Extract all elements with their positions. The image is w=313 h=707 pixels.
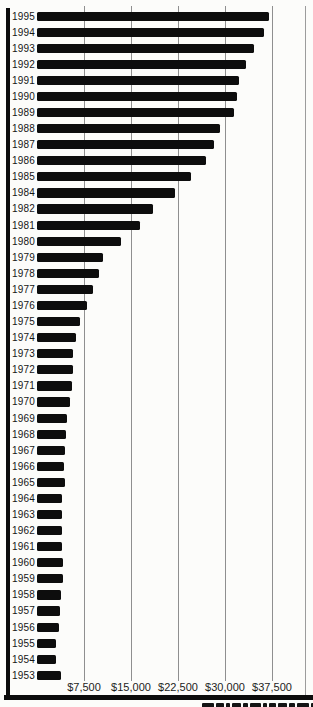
bar-1989 [37, 108, 234, 117]
bar-row: 1994 [0, 26, 313, 42]
bar-1970 [37, 397, 70, 406]
bar-1967 [37, 446, 65, 455]
year-label: 1964 [0, 493, 35, 505]
bar-1965 [37, 478, 65, 487]
year-label: 1967 [0, 445, 35, 457]
year-label: 1972 [0, 364, 35, 376]
year-label: 1986 [0, 155, 35, 167]
bar-row: 1989 [0, 106, 313, 122]
bar-row: 1987 [0, 138, 313, 154]
bar-1966 [37, 462, 64, 471]
bar-row: 1968 [0, 428, 313, 444]
bar-1953 [37, 671, 61, 680]
bar-1960 [37, 558, 63, 567]
bar-row: 1954 [0, 653, 313, 669]
bar-1979 [37, 253, 103, 262]
year-label: 1969 [0, 413, 35, 425]
year-label: 1989 [0, 107, 35, 119]
year-label: 1963 [0, 509, 35, 521]
bar-row: 1985 [0, 170, 313, 186]
year-label: 1987 [0, 139, 35, 151]
year-label: 1984 [0, 187, 35, 199]
bar-row: 1958 [0, 588, 313, 604]
bar-1976 [37, 301, 87, 310]
year-label: 1994 [0, 27, 35, 39]
bar-1962 [37, 526, 62, 535]
bar-1995 [37, 12, 269, 21]
bar-1963 [37, 510, 62, 519]
year-label: 1957 [0, 605, 35, 617]
year-label: 1968 [0, 429, 35, 441]
bar-row: 1963 [0, 508, 313, 524]
bar-1959 [37, 574, 63, 583]
bar-1991 [37, 76, 239, 85]
year-label: 1985 [0, 171, 35, 183]
x-tick-label: $37,500 [240, 681, 304, 693]
bar-row: 1982 [0, 202, 313, 218]
bar-row: 1957 [0, 604, 313, 620]
bar-1957 [37, 606, 60, 615]
year-label: 1988 [0, 123, 35, 135]
bar-row: 1956 [0, 621, 313, 637]
bar-row: 1971 [0, 379, 313, 395]
bar-row: 1977 [0, 283, 313, 299]
year-label: 1993 [0, 43, 35, 55]
bar-1973 [37, 349, 73, 358]
year-label: 1979 [0, 252, 35, 264]
bar-row: 1967 [0, 444, 313, 460]
year-label: 1958 [0, 589, 35, 601]
bar-row: 1978 [0, 267, 313, 283]
bar-1988 [37, 124, 220, 133]
bar-row: 1961 [0, 540, 313, 556]
bar-row: 1975 [0, 315, 313, 331]
bar-1990 [37, 92, 237, 101]
bar-row: 1959 [0, 572, 313, 588]
bar-1993 [37, 44, 254, 53]
bar-1985 [37, 172, 191, 181]
bar-1956 [37, 623, 59, 632]
bar-1978 [37, 269, 99, 278]
bar-row: 1980 [0, 235, 313, 251]
bar-1972 [37, 365, 73, 374]
year-label: 1990 [0, 91, 35, 103]
bar-row: 1962 [0, 524, 313, 540]
bar-row: 1970 [0, 395, 313, 411]
bar-1980 [37, 237, 121, 246]
bar-row: 1986 [0, 154, 313, 170]
cut-off-text-fragment [202, 703, 313, 707]
bar-row: 1972 [0, 363, 313, 379]
year-label: 1960 [0, 557, 35, 569]
year-label: 1970 [0, 396, 35, 408]
year-label: 1953 [0, 670, 35, 682]
bar-1977 [37, 285, 93, 294]
year-label: 1973 [0, 348, 35, 360]
year-label: 1981 [0, 220, 35, 232]
year-label: 1982 [0, 203, 35, 215]
bar-row: 1965 [0, 476, 313, 492]
bar-1961 [37, 542, 62, 551]
bar-1954 [37, 655, 56, 664]
bar-row: 1995 [0, 10, 313, 26]
year-label: 1971 [0, 380, 35, 392]
scanned-bar-chart-page: 1995199419931992199119901989198819871986… [0, 0, 313, 707]
bar-row: 1973 [0, 347, 313, 363]
bar-row: 1988 [0, 122, 313, 138]
year-label: 1965 [0, 477, 35, 489]
year-label: 1980 [0, 236, 35, 248]
bar-1984 [37, 188, 175, 197]
year-label: 1976 [0, 300, 35, 312]
year-label: 1956 [0, 622, 35, 634]
bar-1987 [37, 140, 214, 149]
bar-row: 1991 [0, 74, 313, 90]
chart-bottom-rule [4, 695, 313, 700]
bar-row: 1964 [0, 492, 313, 508]
bar-1964 [37, 494, 62, 503]
bar-1981 [37, 221, 140, 230]
bar-row: 1992 [0, 58, 313, 74]
year-label: 1955 [0, 638, 35, 650]
bar-row: 1966 [0, 460, 313, 476]
bar-1969 [37, 414, 67, 423]
bar-row: 1960 [0, 556, 313, 572]
year-label: 1974 [0, 332, 35, 344]
year-label: 1975 [0, 316, 35, 328]
